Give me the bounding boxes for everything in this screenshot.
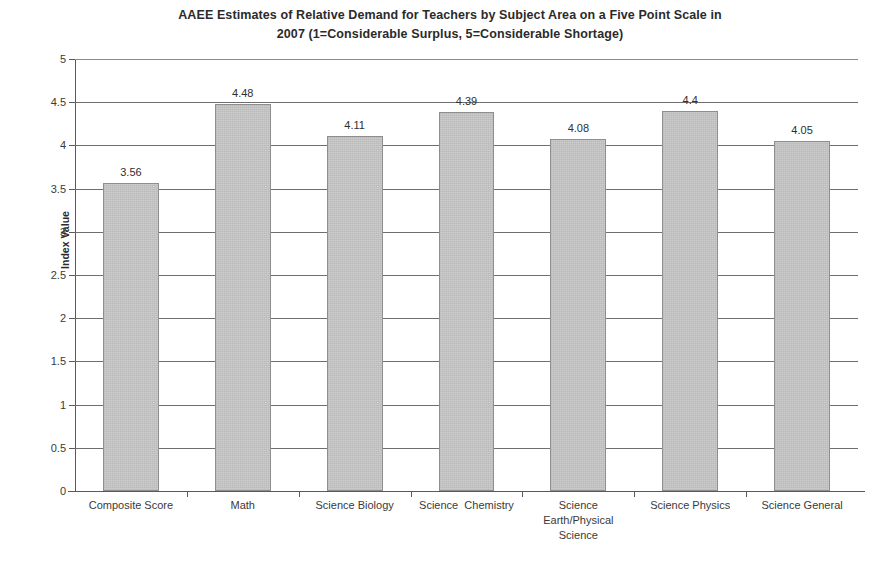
- bar[interactable]: [774, 141, 830, 491]
- y-axis-tick-label: 2: [60, 312, 66, 324]
- bar-value-label: 4.48: [187, 87, 299, 99]
- bar[interactable]: [215, 104, 271, 491]
- bar-value-label: 4.08: [522, 122, 634, 134]
- bar[interactable]: [550, 139, 606, 492]
- bar[interactable]: [439, 112, 495, 491]
- x-axis-tick: [522, 491, 523, 497]
- x-axis-category-label-line: Science General: [746, 498, 858, 513]
- x-axis-category-label-line: Composite Score: [75, 498, 187, 513]
- x-axis-category-label: Science Physics: [634, 498, 746, 513]
- x-axis-category-label-line: Science Physics: [634, 498, 746, 513]
- y-axis-tick-label: 3.5: [51, 183, 66, 195]
- x-axis-category-label-line: Science: [522, 498, 634, 513]
- bar-slot: 3.56: [75, 59, 187, 491]
- x-axis-category-label: Science Chemistry: [411, 498, 523, 513]
- bar-slot: 4.39: [411, 59, 523, 491]
- x-axis-labels: Composite ScoreMathScience BiologyScienc…: [75, 498, 858, 566]
- bar-value-label: 4.4: [634, 94, 746, 106]
- x-axis-category-label-line: Math: [187, 498, 299, 513]
- x-axis-category-label: Composite Score: [75, 498, 187, 513]
- chart-title-line-1: AAEE Estimates of Relative Demand for Te…: [70, 6, 830, 25]
- bar-slot: 4.4: [634, 59, 746, 491]
- y-axis-tick-label: 1: [60, 399, 66, 411]
- x-axis-category-label: Math: [187, 498, 299, 513]
- x-axis-category-label-line: Earth/Physical: [522, 513, 634, 528]
- bar-value-label: 4.39: [411, 95, 523, 107]
- bar-slot: 4.48: [187, 59, 299, 491]
- plot-area: 54.543.532.521.510.50 3.564.484.114.394.…: [75, 59, 858, 491]
- bar-slot: 4.08: [522, 59, 634, 491]
- y-axis-tick-label: 4: [60, 139, 66, 151]
- y-axis-tick-label: 0: [60, 485, 66, 497]
- y-axis-tick-label: 5: [60, 53, 66, 65]
- bar-slot: 4.05: [746, 59, 858, 491]
- x-axis-category-label-line: Science: [522, 528, 634, 543]
- x-axis-category-label: Science General: [746, 498, 858, 513]
- x-axis-tick: [187, 491, 188, 497]
- x-axis-tick: [746, 491, 747, 497]
- x-axis-category-label-line: Science Chemistry: [411, 498, 523, 513]
- y-axis-tick: [69, 491, 75, 492]
- chart-title-line-2: 2007 (1=Considerable Surplus, 5=Consider…: [70, 25, 830, 44]
- bar-value-label: 3.56: [75, 166, 187, 178]
- y-axis-tick-label: 3: [60, 226, 66, 238]
- bar-value-label: 4.05: [746, 124, 858, 136]
- bar-value-label: 4.11: [299, 119, 411, 131]
- x-axis-tick: [299, 491, 300, 497]
- y-axis-tick-label: 2.5: [51, 269, 66, 281]
- x-axis-category-label-line: Science Biology: [299, 498, 411, 513]
- chart-title: AAEE Estimates of Relative Demand for Te…: [70, 6, 830, 44]
- x-axis-tick: [411, 491, 412, 497]
- x-axis-category-label: Science Biology: [299, 498, 411, 513]
- y-axis-tick-label: 1.5: [51, 355, 66, 367]
- y-axis-tick-label: 4.5: [51, 96, 66, 108]
- bar[interactable]: [662, 111, 718, 491]
- y-axis-tick-label: 0.5: [51, 442, 66, 454]
- bar-chart: AAEE Estimates of Relative Demand for Te…: [0, 0, 887, 570]
- bar[interactable]: [327, 136, 383, 491]
- bar[interactable]: [103, 183, 159, 491]
- x-axis-tick: [634, 491, 635, 497]
- x-axis-category-label: ScienceEarth/PhysicalScience: [522, 498, 634, 543]
- bar-slot: 4.11: [299, 59, 411, 491]
